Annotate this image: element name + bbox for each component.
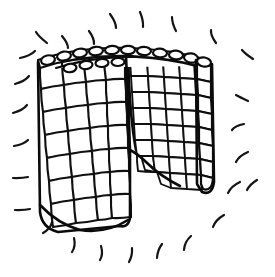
stone-block-near-27: [111, 194, 131, 218]
stone-block-near-25: [74, 197, 98, 223]
sparkle-stroke-19: [13, 177, 28, 178]
stone-block-near-23: [110, 171, 130, 195]
sparkle-stroke-18: [15, 209, 30, 210]
curved-stone-wall-drawing: Curved stone wall A hand-drawn curved st…: [0, 0, 275, 277]
stone-block-near-26: [96, 195, 112, 220]
stone-block-near-22: [94, 172, 111, 197]
illustration-canvas: Curved stone wall A hand-drawn curved st…: [0, 0, 275, 277]
stone-block-near-6: [86, 80, 107, 105]
stone-block-near-7: [106, 79, 126, 103]
stone-block-near-18: [92, 149, 110, 174]
stone-block-near-9: [66, 105, 90, 131]
stone-block-near-14: [90, 126, 109, 151]
stone-block-near-15: [108, 125, 128, 149]
stone-block-near-10: [88, 103, 108, 128]
stone-block-near-21: [72, 174, 96, 200]
near-wall-blocks: [40, 56, 131, 227]
stone-block-near-13: [68, 128, 92, 154]
stone-block-near-5: [64, 82, 88, 108]
stone-block-near-11: [107, 102, 127, 126]
stone-block-near-19: [109, 148, 129, 172]
stone-block-near-17: [70, 151, 94, 177]
